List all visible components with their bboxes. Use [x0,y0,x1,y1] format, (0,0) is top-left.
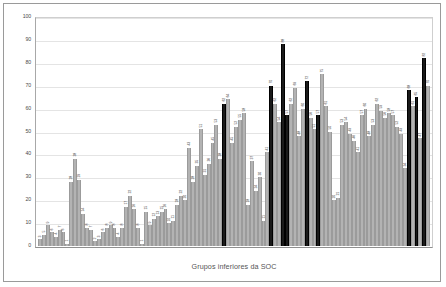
y-axis-tick-label: 20 [5,198,31,203]
y-axis-tick-label: 90 [5,37,31,42]
y-axis-tick-label: 40 [5,152,31,157]
bar-series: 3596476128382914872368984817221681159121… [37,19,431,246]
y-axis-tick-label: 100 [5,14,31,19]
bar-value-label: 70 [427,80,431,84]
y-axis-tick-label: 70 [5,83,31,88]
chart-screenshot: 0102030405060708090100 35964761283829148… [0,0,446,287]
y-axis-tick-label: 60 [5,106,31,111]
y-axis-tick-label: 80 [5,60,31,65]
bar[interactable]: 70 [426,86,430,246]
y-axis: 0102030405060708090100 [4,17,33,249]
figure-frame: 0102030405060708090100 35964761283829148… [3,3,441,282]
x-axis-title: Grupos inferiores da SOC [35,262,433,271]
y-axis-tick-label: 50 [5,129,31,134]
y-axis-tick-label: 0 [5,243,31,248]
plot-area: 3596476128382914872368984817221681159121… [35,17,433,248]
y-axis-tick-label: 30 [5,175,31,180]
y-axis-tick-label: 10 [5,220,31,225]
bar-slot: 70 [426,19,430,246]
